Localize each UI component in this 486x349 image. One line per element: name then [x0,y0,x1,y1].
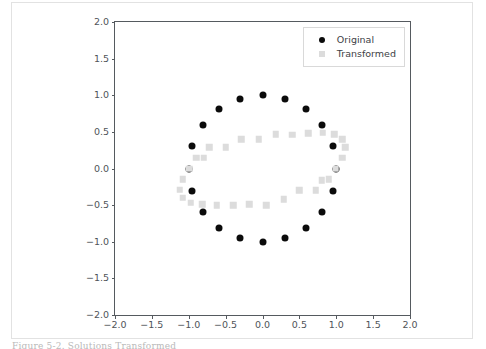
data-point-original [319,208,326,215]
data-point-transformed [273,131,280,138]
x-tick-mark [410,315,411,319]
y-tick-label: 2.0 [94,17,109,27]
data-point-transformed [331,131,338,138]
y-tick-label: 1.0 [94,90,109,100]
data-point-transformed [296,187,303,194]
y-tick-label: 1.5 [94,54,109,64]
data-point-transformed [193,154,200,161]
data-point-original [215,224,222,231]
legend-circle-icon [310,37,334,44]
x-tick-label: −0.5 [214,320,237,330]
y-tick-mark [112,205,116,206]
y-tick-label: 0.5 [94,127,109,137]
data-point-original [303,224,310,231]
y-tick-mark [112,315,116,316]
data-point-transformed [214,202,221,209]
data-point-transformed [263,202,270,209]
figure-caption: Figure 5-2. Solutions Transformed [12,341,252,349]
y-tick-mark [112,22,116,23]
data-point-transformed [180,176,187,183]
x-tick-label: −1.0 [177,320,200,330]
data-point-original [199,208,206,215]
data-point-transformed [289,132,296,139]
data-point-original [199,122,206,129]
y-tick-mark [112,169,116,170]
x-tick-mark [189,315,190,319]
data-point-original [303,106,310,113]
y-tick-mark [112,242,116,243]
data-point-transformed [332,165,339,172]
x-tick-label: 1.5 [366,320,381,330]
data-point-transformed [200,154,207,161]
figure-page: OriginalTransformed −2.0−1.5−1.0−0.50.00… [0,0,486,349]
data-point-transformed [326,176,333,183]
figure-card: OriginalTransformed −2.0−1.5−1.0−0.50.00… [11,2,473,339]
data-point-transformed [305,130,312,137]
x-tick-mark [336,315,337,319]
data-point-transformed [318,177,325,184]
legend-swatch [319,37,326,44]
data-point-original [319,122,326,129]
data-point-transformed [188,200,195,207]
data-point-original [329,142,336,149]
data-point-transformed [180,195,187,202]
x-tick-mark [152,315,153,319]
scatter-plot-axes: OriginalTransformed −2.0−1.5−1.0−0.50.00… [114,21,411,316]
data-point-transformed [186,165,193,172]
data-point-original [215,106,222,113]
data-point-original [259,92,266,99]
data-point-transformed [177,186,184,193]
x-tick-label: 0.5 [292,320,307,330]
legend-square-icon [310,51,334,58]
x-tick-label: −2.0 [103,320,126,330]
data-point-original [236,95,243,102]
y-tick-mark [112,95,116,96]
data-point-transformed [256,136,263,143]
data-point-transformed [230,202,237,209]
data-point-transformed [238,136,245,143]
data-point-transformed [342,144,349,151]
x-tick-label: −1.5 [140,320,163,330]
data-point-original [282,235,289,242]
data-point-transformed [312,187,319,194]
data-point-transformed [339,136,346,143]
x-tick-mark [373,315,374,319]
data-point-original [329,188,336,195]
legend-swatch [319,51,326,58]
y-tick-label: −0.5 [86,200,109,210]
y-tick-label: 0.0 [94,164,109,174]
data-point-original [189,142,196,149]
y-tick-label: −2.0 [86,310,109,320]
legend-entry[interactable]: Transformed [310,47,396,61]
data-point-original [259,238,266,245]
data-point-transformed [281,196,288,203]
data-point-original [282,95,289,102]
legend-entry[interactable]: Original [310,33,396,47]
y-tick-label: −1.5 [86,273,109,283]
x-tick-label: 0.0 [255,320,270,330]
data-point-transformed [339,154,346,161]
x-tick-mark [299,315,300,319]
data-point-transformed [246,201,253,208]
data-point-original [236,235,243,242]
y-tick-label: −1.0 [86,237,109,247]
x-tick-mark [263,315,264,319]
legend-label: Original [334,34,374,46]
data-point-transformed [206,144,213,151]
legend-label: Transformed [334,48,396,60]
data-point-transformed [222,144,229,151]
x-tick-label: 1.0 [329,320,344,330]
data-point-transformed [199,201,206,208]
y-tick-mark [112,59,116,60]
x-tick-mark [115,315,116,319]
chart-legend: OriginalTransformed [303,27,405,67]
y-tick-mark [112,132,116,133]
x-tick-mark [226,315,227,319]
y-tick-mark [112,278,116,279]
data-point-original [189,188,196,195]
data-point-transformed [320,129,327,136]
x-tick-label: 2.0 [402,320,417,330]
